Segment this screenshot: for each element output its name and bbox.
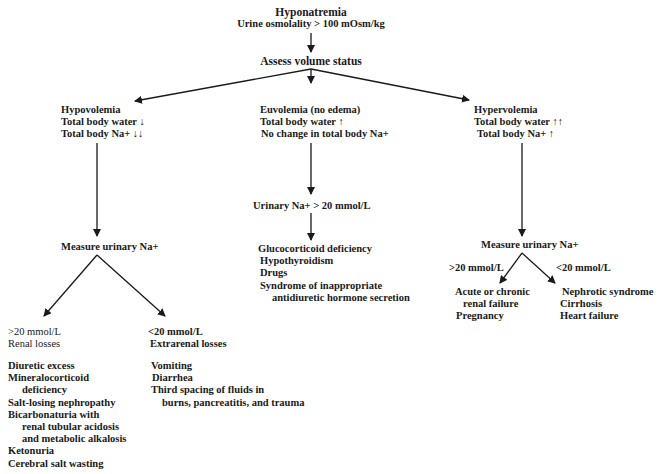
euvolemia-sodium: No change in total body Na+	[260, 128, 389, 140]
hypervolemia-low-cause: Nephrotic syndrome	[560, 286, 654, 298]
hypervolemia-title: Hypervolemia	[474, 104, 563, 116]
hypervolemia-high-cause: renal failure	[455, 298, 530, 310]
hypervolemia-low-causes: Nephrotic syndrome Cirrhosis Heart failu…	[560, 286, 654, 323]
renal-cause: deficiency	[8, 384, 126, 396]
renal-cause: Cerebral salt wasting	[8, 458, 126, 470]
euvolemia-cause: antidiuretic hormone secretion	[258, 292, 410, 304]
hypovolemia-title: Hypovolemia	[61, 104, 145, 116]
hypovolemia-sodium: Total body Na+ ↓↓	[61, 128, 145, 140]
euvolemia-cause: Hypothyroidism	[258, 255, 410, 267]
euvolemia-node: Euvolemia (no edema) Total body water ↑ …	[260, 104, 389, 141]
root-subtitle: Urine osmolality > 100 mOsm/kg	[226, 18, 396, 30]
euvolemia-urinary-na: Urinary Na+ > 20 mmol/L	[253, 200, 371, 212]
euvolemia-cause: Drugs	[258, 267, 410, 279]
hypervolemia-low-cause: Cirrhosis	[560, 298, 654, 310]
renal-label: Renal losses	[8, 338, 61, 350]
renal-cause: Mineralocorticoid	[8, 372, 126, 384]
hypervolemia-low-cause: Heart failure	[560, 310, 654, 322]
renal-losses-node: >20 mmol/L Renal losses	[8, 326, 61, 350]
hypervolemia-low-threshold: <20 mmol/L	[556, 262, 611, 274]
hypervolemia-sodium: Total body Na+ ↑	[474, 128, 563, 140]
hypervolemia-high-causes: Acute or chronic renal failure Pregnancy	[455, 286, 530, 323]
assess-volume-node: Assess volume status	[226, 55, 396, 67]
extrarenal-threshold: <20 mmol/L	[148, 326, 227, 338]
hypovolemia-measure-na: Measure urinary Na+	[61, 241, 158, 253]
extrarenal-cause: burns, pancreatitis, and trauma	[151, 397, 304, 409]
extrarenal-causes: Vomiting Diarrhea Third spacing of fluid…	[151, 360, 304, 409]
renal-causes: Diuretic excess Mineralocorticoid defici…	[8, 360, 126, 470]
hypervolemia-high-cause: Acute or chronic	[455, 286, 530, 298]
euvolemia-water: Total body water ↑	[260, 116, 389, 128]
hypervolemia-node: Hypervolemia Total body water ↑↑ Total b…	[474, 104, 563, 141]
renal-threshold: >20 mmol/L	[8, 326, 61, 338]
renal-cause: Salt-losing nephropathy	[8, 397, 126, 409]
extrarenal-label: Extrarenal losses	[148, 338, 227, 350]
extrarenal-cause: Vomiting	[151, 360, 304, 372]
extrarenal-cause: Diarrhea	[151, 372, 304, 384]
hypovolemia-node: Hypovolemia Total body water ↓ Total bod…	[61, 104, 145, 141]
renal-cause: renal tubular acidosis	[8, 421, 126, 433]
renal-cause: and metabolic alkalosis	[8, 433, 126, 445]
renal-cause: Ketonuria	[8, 445, 126, 457]
hypovolemia-water: Total body water ↓	[61, 116, 145, 128]
root-title: Hyponatremia	[226, 6, 396, 18]
euvolemia-cause: Glucocorticoid deficiency	[258, 243, 410, 255]
euvolemia-cause: Syndrome of inappropriate	[258, 280, 410, 292]
root-node: Hyponatremia Urine osmolality > 100 mOsm…	[226, 6, 396, 30]
extrarenal-cause: Third spacing of fluids in	[151, 384, 304, 396]
renal-cause: Diuretic excess	[8, 360, 126, 372]
renal-cause: Bicarbonaturia with	[8, 409, 126, 421]
extrarenal-losses-node: <20 mmol/L Extrarenal losses	[148, 326, 227, 350]
hypervolemia-high-cause: Pregnancy	[455, 310, 530, 322]
hypervolemia-high-threshold: >20 mmol/L	[449, 262, 504, 274]
hypervolemia-measure-na: Measure urinary Na+	[481, 239, 578, 251]
euvolemia-causes: Glucocorticoid deficiency Hypothyroidism…	[258, 243, 410, 304]
hypervolemia-water: Total body water ↑↑	[474, 116, 563, 128]
euvolemia-title: Euvolemia (no edema)	[260, 104, 389, 116]
